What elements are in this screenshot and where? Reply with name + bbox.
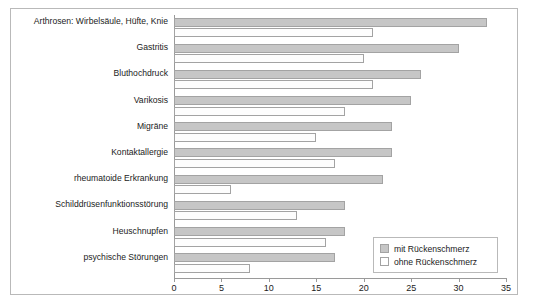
- category-label: Gastritis: [136, 41, 168, 54]
- x-tick-label: 10: [264, 283, 274, 293]
- bar-ohne-rueckenschmerz: [174, 238, 326, 247]
- category-label: Bluthochdruck: [114, 67, 168, 80]
- x-tick-label: 0: [171, 283, 176, 293]
- bar-mit-rueckenschmerz: [174, 44, 459, 53]
- bar-mit-rueckenschmerz: [174, 175, 383, 184]
- bar-row: Arthrosen: Wirbelsäule, Hüfte, Knie: [174, 15, 506, 41]
- bar-mit-rueckenschmerz: [174, 122, 392, 131]
- x-tick-label: 20: [359, 283, 369, 293]
- bar-row: Schilddrüsenfunktionsstörung: [174, 198, 506, 224]
- x-tick-mark: [364, 278, 365, 282]
- x-tick-mark: [459, 278, 460, 282]
- bar-mit-rueckenschmerz: [174, 148, 392, 157]
- x-tick-mark: [269, 278, 270, 282]
- bar-ohne-rueckenschmerz: [174, 211, 297, 220]
- legend-item-mit: mit Rückenschmerz: [380, 242, 491, 255]
- bar-row: Varikosis: [174, 94, 506, 120]
- x-tick-mark: [221, 278, 222, 282]
- bar-ohne-rueckenschmerz: [174, 107, 345, 116]
- bar-mit-rueckenschmerz: [174, 96, 411, 105]
- chart-root: Arthrosen: Wirbelsäule, Hüfte, KnieGastr…: [0, 0, 533, 307]
- legend-label-ohne: ohne Rückenschmerz: [394, 257, 477, 267]
- bar-ohne-rueckenschmerz: [174, 264, 250, 273]
- bar-ohne-rueckenschmerz: [174, 54, 364, 63]
- x-tick-label: 30: [454, 283, 464, 293]
- bar-row: Kontaktallergie: [174, 146, 506, 172]
- x-tick-label: 15: [311, 283, 321, 293]
- category-label: psychische Störungen: [83, 251, 168, 264]
- chart-legend: mit Rückenschmerz ohne Rückenschmerz: [373, 237, 498, 273]
- bar-row: Gastritis: [174, 41, 506, 67]
- bar-ohne-rueckenschmerz: [174, 80, 373, 89]
- bar-mit-rueckenschmerz: [174, 227, 345, 236]
- bar-row: Bluthochdruck: [174, 67, 506, 93]
- category-label: rheumatoide Erkrankung: [74, 172, 168, 185]
- legend-swatch-ohne-icon: [380, 257, 389, 266]
- category-label: Varikosis: [134, 94, 168, 107]
- category-label: Heuschnupfen: [113, 225, 168, 238]
- category-label: Schilddrüsenfunktionsstörung: [55, 198, 168, 211]
- bar-mit-rueckenschmerz: [174, 70, 421, 79]
- category-label: Kontaktallergie: [111, 146, 168, 159]
- bar-row: rheumatoide Erkrankung: [174, 172, 506, 198]
- x-tick-mark: [506, 278, 507, 282]
- legend-item-ohne: ohne Rückenschmerz: [380, 255, 491, 268]
- bar-row: Migräne: [174, 120, 506, 146]
- x-tick-mark: [411, 278, 412, 282]
- bar-ohne-rueckenschmerz: [174, 185, 231, 194]
- bar-mit-rueckenschmerz: [174, 253, 335, 262]
- chart-frame: Arthrosen: Wirbelsäule, Hüfte, KnieGastr…: [10, 8, 518, 295]
- bar-ohne-rueckenschmerz: [174, 159, 335, 168]
- legend-label-mit: mit Rückenschmerz: [394, 244, 469, 254]
- x-tick-mark: [316, 278, 317, 282]
- x-tick-label: 5: [219, 283, 224, 293]
- legend-swatch-mit-icon: [380, 244, 389, 253]
- category-label: Migräne: [137, 120, 168, 133]
- x-axis-line: [174, 278, 507, 279]
- bar-ohne-rueckenschmerz: [174, 133, 316, 142]
- bar-mit-rueckenschmerz: [174, 18, 487, 27]
- x-tick-label: 35: [501, 283, 511, 293]
- x-tick-label: 25: [406, 283, 416, 293]
- bar-mit-rueckenschmerz: [174, 201, 345, 210]
- x-tick-mark: [174, 278, 175, 282]
- category-label: Arthrosen: Wirbelsäule, Hüfte, Knie: [34, 15, 168, 28]
- bar-ohne-rueckenschmerz: [174, 28, 373, 37]
